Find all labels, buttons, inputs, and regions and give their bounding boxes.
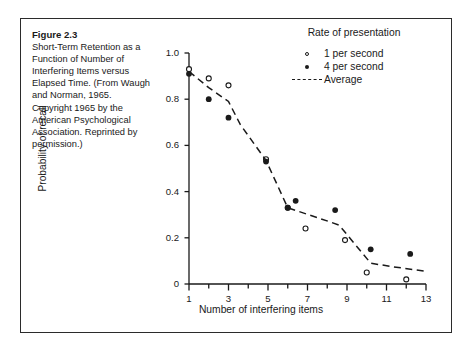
x-axis-tick-label: 9 xyxy=(337,293,357,304)
y-axis-tick-label: 0.2 xyxy=(153,232,179,243)
x-axis-tick-label: 1 xyxy=(179,293,199,304)
figure-frame: Figure 2.3 Short-Term Retention as a Fun… xyxy=(20,18,452,333)
x-axis-tick-label: 11 xyxy=(377,293,397,304)
x-axis-title: Number of interfering items xyxy=(181,304,341,315)
y-axis-tick-label: 0.6 xyxy=(153,139,179,150)
y-axis-title: Probability of recall xyxy=(37,89,48,209)
x-axis-tick-label: 3 xyxy=(219,293,239,304)
y-axis-tick-label: 0 xyxy=(153,278,179,289)
y-axis-tick-label: 1.0 xyxy=(153,47,179,58)
x-axis-tick-label: 13 xyxy=(416,293,436,304)
chart-canvas xyxy=(21,19,453,334)
x-axis-tick-label: 5 xyxy=(258,293,278,304)
y-axis-tick-label: 0.4 xyxy=(153,186,179,197)
y-axis-tick-label: 0.8 xyxy=(153,93,179,104)
x-axis-tick-label: 7 xyxy=(298,293,318,304)
chart-plot-area: Probability of recall Number of interfer… xyxy=(21,19,453,334)
